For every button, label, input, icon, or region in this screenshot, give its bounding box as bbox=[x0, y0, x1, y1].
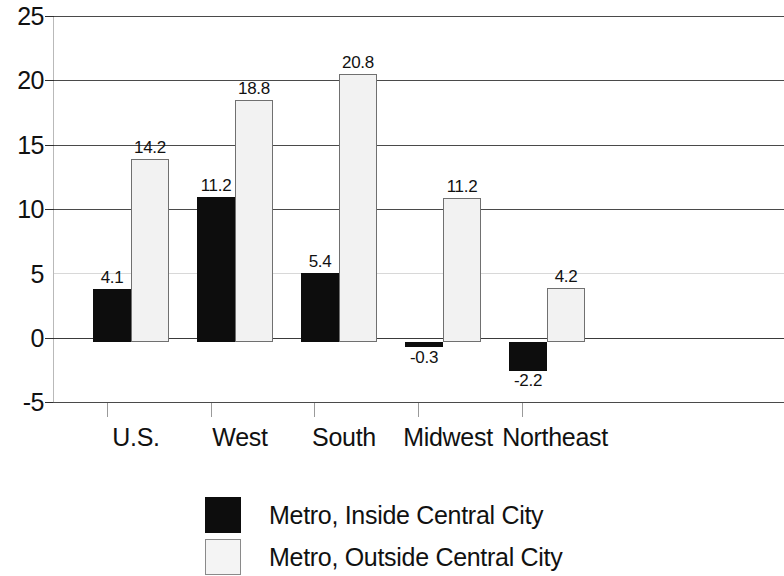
y-tick-25 bbox=[45, 16, 54, 17]
x-axis-label-west: West bbox=[185, 423, 295, 451]
chart-legend: Metro, Inside Central City Metro, Outsid… bbox=[205, 494, 562, 576]
bar-south-inside bbox=[301, 273, 339, 342]
legend-item-outside-central-city: Metro, Outside Central City bbox=[205, 536, 562, 576]
bar-midwest-outside bbox=[443, 198, 481, 342]
y-tick-label-10: 10 bbox=[0, 197, 44, 222]
y-tick-label-20: 20 bbox=[0, 68, 44, 93]
bar-midwest-inside bbox=[405, 342, 443, 347]
bar-label-northeast-inside: -2.2 bbox=[498, 372, 558, 390]
bar-west-outside bbox=[235, 100, 273, 342]
gridline-25 bbox=[53, 16, 784, 17]
bar-label-south-outside: 20.8 bbox=[328, 54, 388, 72]
y-tick-label-25: 25 bbox=[0, 4, 44, 29]
x-axis-label-northeast: Northeast bbox=[492, 423, 618, 451]
bar-label-midwest-outside: 11.2 bbox=[432, 178, 492, 196]
bar-us-inside bbox=[93, 289, 131, 342]
y-tick-10 bbox=[45, 209, 54, 210]
bar-label-west-outside: 18.8 bbox=[224, 80, 284, 98]
gridline-20 bbox=[53, 80, 784, 81]
y-tick-15 bbox=[45, 145, 54, 146]
bar-label-us-inside: 4.1 bbox=[82, 269, 142, 287]
bar-label-midwest-inside: -0.3 bbox=[394, 349, 454, 367]
x-tick-5 bbox=[522, 403, 523, 417]
y-tick-0 bbox=[45, 338, 54, 339]
bar-label-west-inside: 11.2 bbox=[186, 177, 246, 195]
bar-label-us-outside: 14.2 bbox=[120, 139, 180, 157]
bar-west-inside bbox=[197, 197, 235, 342]
legend-swatch-inside-central-city bbox=[205, 497, 241, 533]
y-tick-label-minus5: -5 bbox=[0, 390, 44, 415]
x-axis-label-us: U.S. bbox=[81, 423, 191, 451]
x-tick-2 bbox=[211, 403, 212, 417]
legend-item-inside-central-city: Metro, Inside Central City bbox=[205, 494, 562, 536]
bar-northeast-inside bbox=[509, 342, 547, 371]
y-tick-label-0: 0 bbox=[0, 326, 44, 351]
bar-chart: 25 20 15 10 5 0 -5 4.1 14.2 11.2 18.8 5.… bbox=[0, 0, 784, 576]
bar-label-northeast-outside: 4.2 bbox=[536, 268, 596, 286]
legend-label-outside-central-city: Metro, Outside Central City bbox=[269, 543, 562, 571]
bar-northeast-outside bbox=[547, 288, 585, 342]
bar-us-outside bbox=[131, 159, 169, 342]
bar-south-outside bbox=[339, 74, 377, 342]
legend-label-inside-central-city: Metro, Inside Central City bbox=[269, 501, 543, 529]
x-axis-label-south: South bbox=[289, 423, 399, 451]
x-axis-label-midwest: Midwest bbox=[388, 423, 508, 451]
x-tick-4 bbox=[418, 403, 419, 417]
y-tick-label-5: 5 bbox=[0, 262, 44, 287]
x-tick-3 bbox=[314, 403, 315, 417]
x-tick-1 bbox=[107, 403, 108, 417]
y-tick-label-15: 15 bbox=[0, 133, 44, 158]
legend-swatch-outside-central-city bbox=[205, 539, 241, 575]
y-tick-20 bbox=[45, 80, 54, 81]
bar-label-south-inside: 5.4 bbox=[290, 253, 350, 271]
